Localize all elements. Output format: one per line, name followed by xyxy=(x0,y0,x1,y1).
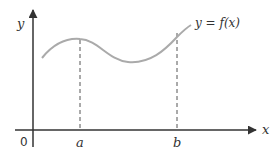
function-graph: y x 0 a b y = f(x) xyxy=(0,0,274,156)
x-axis-label: x xyxy=(262,122,270,137)
y-axis-label: y xyxy=(16,16,25,31)
function-curve xyxy=(42,25,191,62)
origin-label: 0 xyxy=(20,135,28,149)
marker-label-b: b xyxy=(173,135,181,150)
function-label: y = f(x) xyxy=(194,16,240,30)
marker-label-a: a xyxy=(76,135,84,150)
